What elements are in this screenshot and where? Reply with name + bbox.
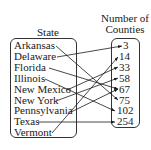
arrow-new-york [56,78,118,101]
arrows-layer [0,0,151,150]
arrow-delaware [57,46,122,57]
